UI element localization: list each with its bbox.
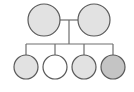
pedigree-diagram xyxy=(0,0,134,92)
child-3-circle xyxy=(72,55,96,79)
child-4-circle xyxy=(101,55,125,79)
parent-2-circle xyxy=(78,4,110,36)
child-1-circle xyxy=(14,55,38,79)
child-2-circle xyxy=(43,55,67,79)
pedigree-svg xyxy=(0,0,134,92)
parent-1-circle xyxy=(28,4,60,36)
